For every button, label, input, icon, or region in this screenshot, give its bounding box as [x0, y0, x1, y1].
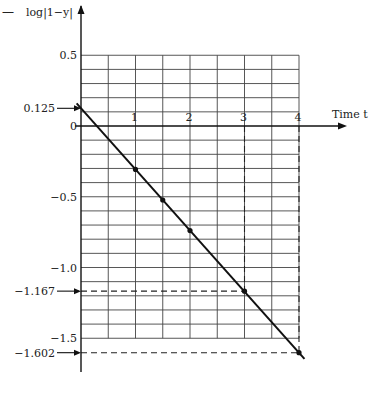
annotation-arrow-head — [74, 350, 81, 356]
data-point — [242, 289, 247, 294]
annotated-y-label: −1.602 — [14, 347, 55, 360]
x-tick-label: 4 — [295, 111, 302, 124]
axes — [75, 5, 347, 372]
x-tick-label: 2 — [186, 111, 193, 124]
y-axis-arrow — [78, 5, 85, 14]
y-tick-label: 0 — [70, 120, 77, 133]
y-tick-label: −1.5 — [50, 332, 77, 345]
x-axis-arrow — [338, 123, 347, 130]
data-point — [296, 350, 301, 355]
annotated-y-label: −1.167 — [14, 285, 55, 298]
header-dash: — — [2, 5, 14, 19]
y-tick-label: 0.5 — [60, 49, 78, 62]
annotation-arrow-head — [74, 288, 81, 294]
data-point — [133, 167, 138, 172]
annotated-y-label: 0.125 — [24, 102, 56, 115]
y-tick-label: −1.0 — [50, 262, 77, 275]
y-axis-label: log|1−y| — [26, 6, 73, 20]
y-tick-label: −0.5 — [50, 191, 77, 204]
data-point — [187, 228, 192, 233]
grid — [81, 55, 299, 338]
data-point — [160, 197, 165, 202]
chart: — 12340.50−0.5−1.0−1.50.125−1.167−1.602l… — [0, 0, 388, 394]
x-axis-label: Time t — [332, 108, 368, 121]
series-line — [77, 103, 305, 358]
x-tick-label: 1 — [131, 111, 138, 124]
x-tick-label: 3 — [240, 111, 247, 124]
